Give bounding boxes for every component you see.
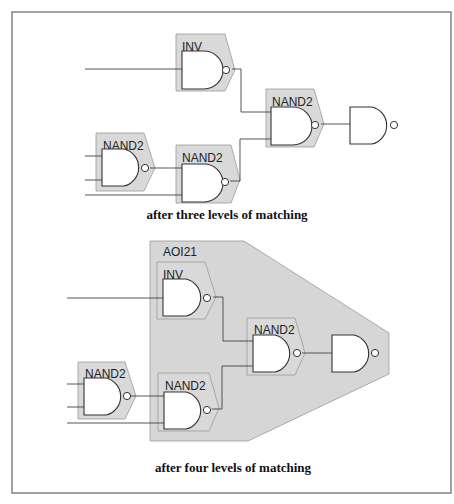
group-label-aoi21: AOI21 bbox=[163, 245, 197, 259]
panel-three-levels: INV NAND2 NAND2 NAND2 bbox=[85, 34, 398, 222]
caption-four-levels: after four levels of matching bbox=[155, 460, 312, 475]
panel-four-levels: AOI21 INV NAND2 NAND2 NAND2 bbox=[67, 241, 389, 475]
inversion-bubble bbox=[390, 121, 397, 128]
caption-three-levels: after three levels of matching bbox=[146, 207, 308, 222]
inversion-bubble bbox=[222, 66, 229, 73]
inversion-bubble bbox=[293, 349, 300, 356]
inversion-bubble bbox=[221, 178, 228, 185]
nand-gate-output bbox=[350, 107, 398, 144]
cell-label-nand-b: NAND2 bbox=[182, 151, 223, 165]
inversion-bubble bbox=[203, 294, 210, 301]
diagram-canvas: INV NAND2 NAND2 NAND2 bbox=[0, 0, 454, 504]
inversion-bubble bbox=[371, 349, 378, 356]
wire bbox=[232, 69, 271, 112]
inversion-bubble bbox=[311, 121, 318, 128]
cell-label-nand-b: NAND2 bbox=[165, 379, 206, 393]
inversion-bubble bbox=[203, 406, 210, 413]
inversion-bubble bbox=[141, 164, 148, 171]
inversion-bubble bbox=[123, 392, 130, 399]
